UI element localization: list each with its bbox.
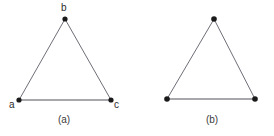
vertex-label-a: a: [9, 100, 15, 110]
edge-apex-right: [214, 19, 255, 99]
caption-panel-a: (a): [48, 114, 80, 125]
vertex-dot-apex: [211, 16, 217, 22]
vertex-dot-left: [164, 96, 170, 102]
vertex-label-b: b: [61, 3, 67, 13]
edge-b-c: [65, 19, 111, 100]
triangle-diagram-svg: [0, 0, 274, 136]
figure-root: a b c (a) (b): [0, 0, 274, 136]
edge-a-b: [19, 19, 65, 100]
vertex-dot-b: [62, 16, 67, 21]
vertex-dot-c: [108, 97, 113, 102]
caption-panel-b: (b): [196, 114, 228, 125]
vertex-dot-a: [16, 97, 21, 102]
edge-left-apex: [167, 19, 214, 99]
vertex-dot-right: [252, 96, 258, 102]
panel-a-triangle: [16, 16, 113, 102]
vertex-label-c: c: [114, 100, 119, 110]
panel-b-triangle: [164, 16, 258, 102]
